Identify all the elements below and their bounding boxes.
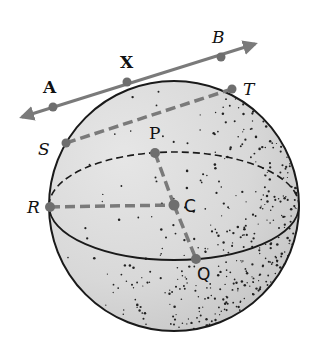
point-q — [191, 254, 201, 264]
label-x: X — [120, 52, 134, 72]
label-c: C — [184, 196, 196, 216]
point-c — [169, 200, 180, 211]
label-p: P — [149, 123, 160, 143]
sphere-diagram: A X B T S P R C Q — [0, 0, 313, 341]
label-b: B — [211, 27, 225, 47]
label-a: A — [42, 77, 57, 97]
label-r: R — [26, 197, 40, 217]
point-t — [228, 85, 237, 94]
radius-rc — [50, 205, 174, 207]
point-r — [45, 202, 55, 212]
point-b — [217, 53, 226, 62]
label-s: S — [38, 139, 50, 159]
point-a — [49, 103, 58, 112]
label-q: Q — [197, 264, 210, 284]
point-x — [123, 78, 132, 87]
label-t: T — [243, 79, 256, 99]
point-p — [150, 148, 160, 158]
point-s — [62, 139, 71, 148]
